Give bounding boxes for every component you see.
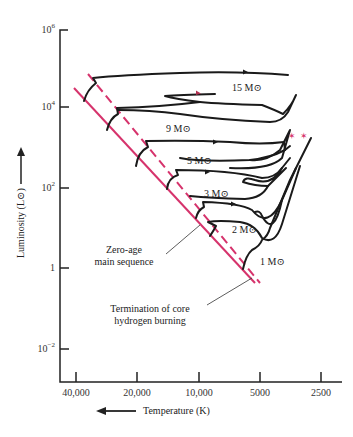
y-tick-label: 102 (42, 180, 56, 193)
direction-arrow-icon (243, 70, 248, 75)
x-tick-label: 10,000 (185, 387, 213, 398)
x-axis-title: Temperature (K) (96, 405, 210, 417)
zams-leader-line (166, 225, 200, 254)
x-tick-label: 5000 (250, 387, 270, 398)
x-axis-label: Temperature (K) (143, 405, 210, 417)
hr-diagram: 106 104 102 1 10−2 40,000 20,000 10,000 … (0, 0, 353, 437)
track-3msun-loop (255, 200, 282, 224)
y-tick-label: 1 (50, 262, 55, 273)
tams-label-line1: Termination of core (110, 303, 190, 314)
track-1msun (243, 138, 311, 269)
zams-label-line2: main sequence (94, 256, 154, 267)
axis-lines (60, 30, 342, 382)
axes (60, 30, 342, 382)
mass-label-15: 15 M⊙ (232, 82, 262, 93)
up-arrowhead-icon (17, 147, 25, 156)
direction-arrow-icon (213, 140, 218, 145)
red-giant-markers: ✶ ✶ (288, 131, 308, 141)
track-15msun-loop (118, 95, 296, 122)
star-icon: ✶ (300, 131, 308, 141)
annotations: Zero-age main sequence Termination of co… (94, 225, 252, 326)
y-tick-labels: 106 104 102 1 10−2 (38, 22, 56, 354)
x-tick-label: 40,000 (62, 387, 90, 398)
mass-label-3: 3 M⊙ (204, 188, 229, 199)
evolutionary-tracks (84, 70, 311, 270)
star-icon: ✶ (288, 131, 296, 141)
tams-label-line2: hydrogen burning (114, 315, 185, 326)
tams-leader-line (207, 278, 252, 305)
y-axis-label: Luminosity (L⊙) (15, 188, 27, 258)
track-5msun (167, 158, 290, 189)
mass-label-1: 1 M⊙ (260, 256, 285, 267)
x-tick-label: 20,000 (123, 387, 151, 398)
y-tick-label: 106 (42, 22, 56, 35)
zams-label-line1: Zero-age (106, 244, 143, 255)
y-tick-label: 104 (42, 99, 56, 112)
y-tick-label: 10−2 (38, 341, 56, 354)
zero-age-main-sequence-line (74, 88, 255, 283)
track-9msun-loop (230, 130, 290, 168)
x-tick-label: 2500 (311, 387, 331, 398)
mass-label-5: 5 M⊙ (187, 155, 212, 166)
left-arrowhead-icon (96, 407, 106, 415)
track-5msun-tail (190, 186, 268, 199)
mass-label-9: 9 M⊙ (166, 123, 191, 134)
mass-label-2: 2 M⊙ (232, 224, 257, 235)
y-axis-title: Luminosity (L⊙) (15, 147, 27, 258)
x-tick-labels: 40,000 20,000 10,000 5000 2500 (62, 387, 331, 398)
